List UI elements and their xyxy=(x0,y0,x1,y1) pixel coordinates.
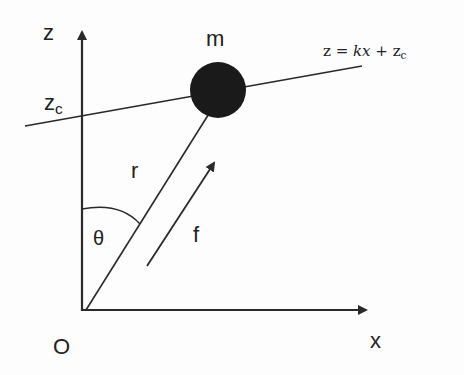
force-arrow xyxy=(147,163,214,266)
theta-label: θ xyxy=(93,228,104,248)
origin-label: O xyxy=(53,336,70,358)
r-label: r xyxy=(131,160,138,182)
intercept-label: zc xyxy=(44,92,63,116)
mass-ball xyxy=(190,62,246,118)
r-line xyxy=(86,112,210,310)
x-axis-label: x xyxy=(370,330,381,352)
line-equation: z = kx + zc xyxy=(323,44,406,60)
theta-arc xyxy=(82,207,140,224)
physics-diagram: z zc m z = kx + zc r θ f O x xyxy=(0,0,464,375)
mass-label: m xyxy=(206,28,224,50)
z-axis-label: z xyxy=(43,22,54,44)
force-label: f xyxy=(193,224,199,246)
